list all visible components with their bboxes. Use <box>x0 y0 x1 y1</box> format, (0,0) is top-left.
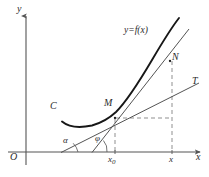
function-label: y=f(x) <box>124 26 148 36</box>
angle-phi-arc <box>103 141 107 153</box>
angle-alpha-label: α <box>63 136 68 145</box>
figure-container: y x O y=f(x) C T M N α φ x0 x <box>0 0 209 177</box>
point-m-label: M <box>104 98 112 108</box>
tick-x-label: x <box>169 155 173 164</box>
secant-line <box>92 29 189 153</box>
point-n-label: N <box>172 52 179 62</box>
point-n-marker <box>169 60 171 62</box>
point-m-marker <box>114 117 116 119</box>
tick-x0-label: x0 <box>108 155 116 166</box>
angle-phi-label: φ <box>95 134 100 143</box>
function-curve <box>62 18 179 127</box>
tick-x0-subscript: 0 <box>112 158 116 166</box>
tangent-label: T <box>192 76 198 86</box>
y-axis-label: y <box>17 4 21 14</box>
origin-label: O <box>10 152 17 162</box>
diagram-canvas <box>0 0 209 177</box>
x-axis-label: x <box>196 152 200 162</box>
curve-label: C <box>50 101 57 111</box>
